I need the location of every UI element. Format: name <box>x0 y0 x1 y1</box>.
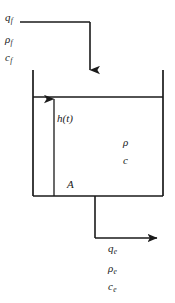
tank-density-symbol: ρ <box>123 136 128 148</box>
inlet-density-subscript: f <box>11 38 13 47</box>
inlet-concentration-label: cf <box>5 52 12 63</box>
outlet-density-symbol: ρ <box>108 262 113 274</box>
inlet-flow-symbol: q <box>5 11 11 23</box>
inlet-pipe <box>20 22 90 70</box>
cross-section-area-symbol: A <box>67 178 74 190</box>
outlet-density-subscript: e <box>114 267 117 276</box>
inlet-density-label: ρf <box>5 34 12 45</box>
inlet-flow-subscript: f <box>11 16 13 25</box>
outlet-pipe <box>95 196 157 238</box>
outlet-flow-label: qe <box>108 243 117 254</box>
inlet-flow-label: qf <box>5 12 13 23</box>
liquid-level-symbol: h(t) <box>57 112 73 124</box>
outlet-concentration-label: ce <box>108 281 116 292</box>
tank-diagram: qf ρf cf h(t) A ρ c qe ρe ce <box>0 0 175 303</box>
inlet-density-symbol: ρ <box>5 33 10 45</box>
outlet-flow-symbol: q <box>108 242 114 254</box>
inlet-concentration-subscript: f <box>10 56 12 65</box>
tank-density-label: ρ <box>123 137 128 148</box>
outlet-density-label: ρe <box>108 263 117 274</box>
tank-concentration-label: c <box>123 155 128 166</box>
liquid-level-label: h(t) <box>57 113 73 124</box>
tank-vessel <box>33 70 163 196</box>
outlet-flow-subscript: e <box>114 247 117 256</box>
outlet-concentration-subscript: e <box>113 285 116 294</box>
cross-section-area-label: A <box>67 179 74 190</box>
tank-concentration-symbol: c <box>123 154 128 166</box>
tank-diagram-drawing <box>0 0 175 303</box>
